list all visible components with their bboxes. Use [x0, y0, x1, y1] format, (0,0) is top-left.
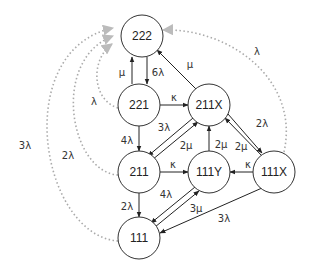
label-2mu-111X-211X: 2μ — [235, 141, 248, 152]
dotted-edge-111-to-222 — [47, 28, 118, 241]
node-label-111X: 111X — [261, 165, 287, 179]
state-diagram: μ 6λ μ κ 4λ 3λ 2μ 2μ 2λ 2μ κ κ 2λ 4λ 3μ … — [0, 0, 314, 274]
label-3mu-111-111Y: 3μ — [190, 203, 203, 214]
node-111X: 111X — [253, 151, 295, 193]
node-label-221: 221 — [129, 98, 149, 112]
node-label-111: 111 — [130, 231, 149, 245]
label-2lambda-211X-111X: 2λ — [256, 118, 268, 129]
label-mu-221-222: μ — [119, 67, 126, 78]
node-label-222: 222 — [132, 29, 152, 43]
node-111: 111 — [118, 217, 160, 259]
node-211: 211 — [118, 151, 160, 193]
label-2lambda-dotted-211: 2λ — [62, 150, 74, 161]
label-lambda-dotted-221: λ — [91, 96, 97, 107]
label-3lambda-211X-211: 3λ — [158, 122, 170, 133]
label-2lambda-211-111: 2λ — [121, 201, 133, 212]
label-kappa-211-111Y: κ — [170, 159, 176, 170]
label-mu-211X-222: μ — [187, 59, 194, 70]
label-kappa-221-211X: κ — [171, 92, 177, 103]
node-label-211X: 211X — [195, 98, 222, 112]
node-label-211: 211 — [129, 165, 148, 179]
dotted-edge-221-to-222 — [97, 44, 118, 108]
label-2mu-211-211X: 2μ — [180, 140, 193, 151]
node-111Y: 111Y — [188, 151, 230, 193]
label-6lambda-222-221: 6λ — [152, 67, 164, 78]
label-lambda-dotted-111X: λ — [254, 46, 260, 57]
node-221: 221 — [118, 84, 160, 126]
label-kappa-111X-111Y: κ — [245, 159, 251, 170]
node-label-111Y: 111Y — [196, 165, 222, 179]
edge-labels: μ 6λ μ κ 4λ 3λ 2μ 2μ 2λ 2μ κ κ 2λ 4λ 3μ … — [19, 46, 268, 224]
node-222: 222 — [121, 15, 163, 57]
label-2mu-111Y-211X: 2μ — [215, 139, 228, 150]
nodes: 222 221 211X 211 111Y 111X 111 — [118, 15, 295, 259]
label-4lambda-111Y-111: 4λ — [160, 189, 172, 200]
label-3lambda-111X-111: 3λ — [218, 213, 230, 224]
node-211X: 211X — [188, 84, 230, 126]
label-3lambda-dotted-111: 3λ — [19, 140, 31, 151]
label-4lambda-221-211: 4λ — [121, 135, 133, 146]
edge-111Y-to-111 — [151, 187, 195, 223]
